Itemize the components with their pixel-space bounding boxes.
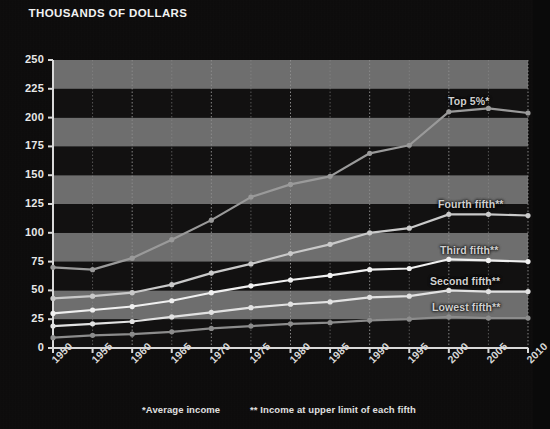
data-point	[446, 109, 451, 114]
data-point	[50, 296, 55, 301]
data-point	[90, 333, 95, 338]
data-point	[327, 273, 332, 278]
data-point	[486, 258, 491, 263]
data-point	[407, 143, 412, 148]
chart-band	[53, 146, 528, 175]
data-point	[169, 298, 174, 303]
data-point	[327, 299, 332, 304]
series-label-4: Lowest fifth**	[432, 301, 500, 313]
y-axis-tick-label: 250	[8, 53, 44, 65]
data-point	[486, 315, 491, 320]
data-point	[525, 213, 530, 218]
data-point	[525, 289, 530, 294]
data-point	[327, 320, 332, 325]
footnote-average-income: *Average income	[142, 404, 220, 415]
data-point	[130, 332, 135, 337]
data-point	[169, 329, 174, 334]
data-point	[288, 182, 293, 187]
data-point	[407, 317, 412, 322]
data-point	[248, 283, 253, 288]
data-point	[327, 242, 332, 247]
y-axis-tick-label: 0	[8, 341, 44, 353]
y-axis-tick-label: 125	[8, 197, 44, 209]
data-point	[446, 257, 451, 262]
data-point	[90, 321, 95, 326]
y-axis-tick-label: 50	[8, 283, 44, 295]
data-point	[50, 335, 55, 340]
data-point	[248, 324, 253, 329]
y-axis-tick-label: 25	[8, 312, 44, 324]
data-point	[525, 110, 530, 115]
y-axis-tick-label: 75	[8, 255, 44, 267]
series-label-1: Fourth fifth**	[438, 198, 504, 210]
data-point	[525, 259, 530, 264]
data-point	[130, 290, 135, 295]
data-point	[288, 251, 293, 256]
data-point	[367, 295, 372, 300]
y-axis-tick-label: 200	[8, 111, 44, 123]
data-point	[367, 267, 372, 272]
data-point	[486, 212, 491, 217]
data-point	[50, 324, 55, 329]
y-axis-tick-label: 225	[8, 82, 44, 94]
data-point	[209, 218, 214, 223]
data-point	[248, 305, 253, 310]
data-point	[248, 261, 253, 266]
data-point	[209, 326, 214, 331]
data-point	[446, 288, 451, 293]
y-axis-tick-label: 150	[8, 168, 44, 180]
data-point	[248, 194, 253, 199]
chart-band	[53, 118, 528, 147]
data-point	[367, 230, 372, 235]
data-point	[288, 302, 293, 307]
data-point	[486, 289, 491, 294]
data-point	[407, 266, 412, 271]
footnote-upper-limit: ** Income at upper limit of each fifth	[250, 404, 416, 415]
data-point	[90, 294, 95, 299]
data-point	[169, 237, 174, 242]
data-point	[130, 319, 135, 324]
data-point	[327, 174, 332, 179]
data-point	[90, 267, 95, 272]
data-point	[407, 294, 412, 299]
y-axis-tick-label: 100	[8, 226, 44, 238]
series-label-3: Second fifth**	[430, 275, 500, 287]
data-point	[50, 311, 55, 316]
data-point	[288, 277, 293, 282]
data-point	[209, 290, 214, 295]
data-point	[407, 226, 412, 231]
data-point	[209, 271, 214, 276]
data-point	[169, 314, 174, 319]
data-point	[50, 265, 55, 270]
data-point	[209, 310, 214, 315]
data-point	[169, 282, 174, 287]
data-point	[446, 314, 451, 319]
data-point	[130, 256, 135, 261]
data-point	[367, 318, 372, 323]
data-point	[446, 212, 451, 217]
y-axis-tick-label: 175	[8, 139, 44, 151]
data-point	[525, 315, 530, 320]
data-point	[90, 307, 95, 312]
data-point	[130, 304, 135, 309]
data-point	[288, 321, 293, 326]
series-label-0: Top 5%*	[448, 95, 489, 107]
data-point	[367, 151, 372, 156]
series-label-2: Third fifth**	[440, 244, 498, 256]
